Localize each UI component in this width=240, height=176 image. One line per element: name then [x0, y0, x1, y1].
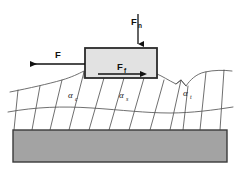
friction-force-label: F — [117, 61, 123, 72]
diagram-canvas: F n F F f α c α s α t — [0, 0, 240, 176]
substrate-bar — [13, 130, 227, 162]
angle-c-label: α — [68, 90, 73, 100]
normal-force-label: F — [131, 16, 137, 27]
angle-c-subscript: c — [75, 96, 78, 102]
normal-force-subscript: n — [138, 22, 142, 29]
angle-s-label: α — [119, 90, 124, 100]
friction-diagram: F n F F f α c α s α t — [0, 0, 240, 176]
angle-t-label: α — [183, 88, 188, 98]
applied-force-label: F — [55, 49, 61, 60]
